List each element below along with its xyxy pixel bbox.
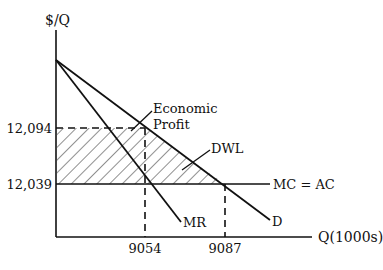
economic-profit-label-line1: Economic bbox=[153, 101, 218, 116]
dwl-label: DWL bbox=[211, 141, 244, 156]
x-axis-label: Q(1000s) bbox=[318, 229, 383, 245]
economic-profit-label-line2: Profit bbox=[153, 117, 190, 132]
monopoly-diagram: $/Q Q(1000s) 12,094 12,039 9054 9087 Eco… bbox=[0, 0, 383, 270]
y-tick-12039: 12,039 bbox=[7, 177, 53, 192]
y-axis-label: $/Q bbox=[45, 12, 70, 28]
mc-ac-label: MC = AC bbox=[273, 177, 335, 192]
x-tick-9054: 9054 bbox=[128, 241, 161, 256]
economic-profit-region bbox=[57, 128, 145, 184]
mr-label: MR bbox=[183, 215, 207, 230]
y-tick-12094: 12,094 bbox=[7, 121, 53, 136]
demand-label: D bbox=[272, 214, 282, 229]
x-tick-9087: 9087 bbox=[208, 241, 241, 256]
